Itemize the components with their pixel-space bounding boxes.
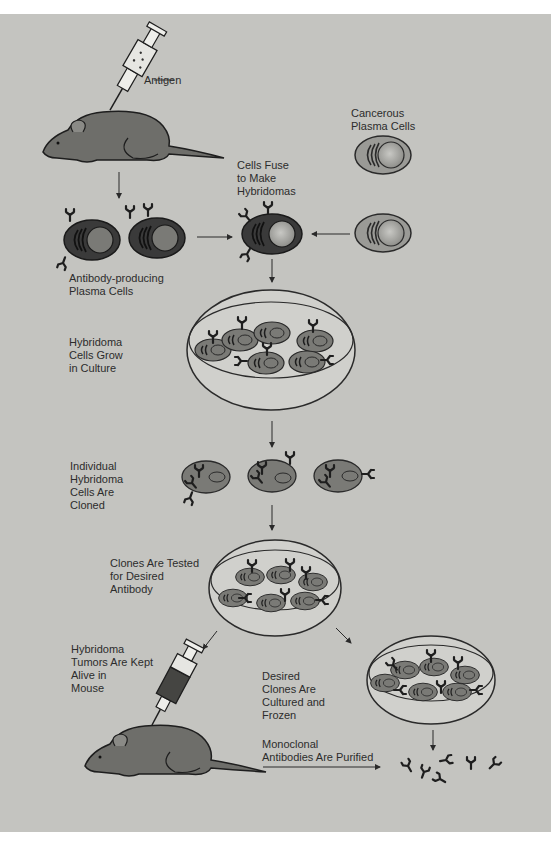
label-clones-tested: Clones Are Tested for Desired Antibody (110, 557, 199, 596)
culture-dish-icon (187, 290, 355, 410)
cancerous-plasma-cells-icon (355, 136, 411, 252)
mouse-with-antigen-icon (43, 21, 224, 162)
label-cancerous-plasma-cells: Cancerous Plasma Cells (351, 107, 415, 133)
cloned-hybridoma-cells-icon (182, 452, 374, 505)
label-antibody-producing-plasma-cells: Antibody-producing Plasma Cells (69, 272, 164, 298)
label-desired-clones-frozen: Desired Clones Are Cultured and Frozen (262, 670, 325, 722)
label-tumors-kept-alive: Hybridoma Tumors Are Kept Alive in Mouse (71, 643, 153, 695)
label-antibodies-purified: Monoclonal Antibodies Are Purified (262, 738, 373, 764)
hybridoma-cell-icon (239, 202, 302, 261)
antibody-producing-plasma-cells-icon (57, 204, 185, 270)
label-individual-cells-cloned: Individual Hybridoma Cells Are Cloned (70, 460, 123, 512)
frozen-clones-dish-icon (367, 636, 495, 724)
label-hybridoma-cells-grow: Hybridoma Cells Grow in Culture (69, 336, 123, 375)
purified-antibodies-icon (402, 755, 502, 785)
label-cells-fuse: Cells Fuse to Make Hybridomas (237, 159, 296, 198)
test-dish-icon (209, 540, 341, 636)
label-antigen: Antigen (144, 74, 181, 87)
